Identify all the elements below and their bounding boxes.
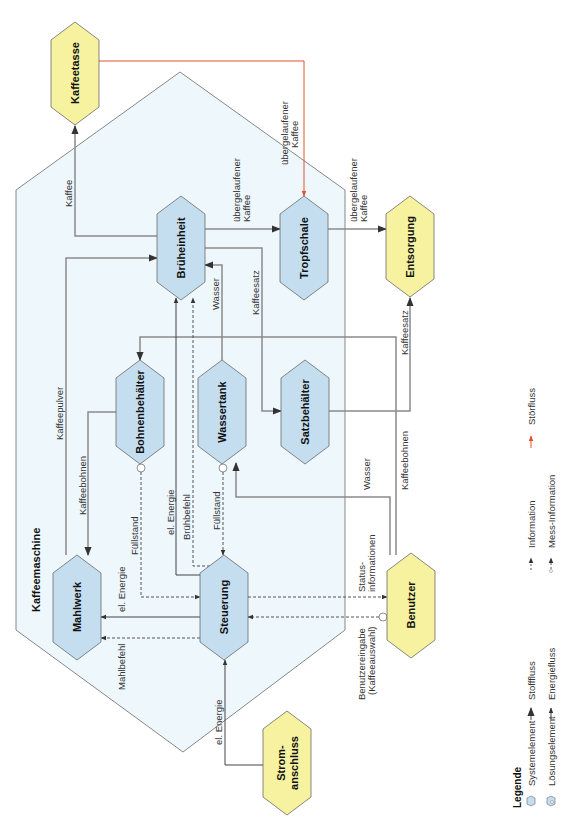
legend-label: Störfluss — [526, 388, 537, 425]
measure-point-benutzer — [379, 613, 387, 621]
flow-label: Kaffeepulver — [54, 387, 65, 440]
svg-text:Satzbehälter: Satzbehälter — [299, 379, 311, 445]
flow-label: informationen — [366, 534, 377, 592]
node-steuerung: Steuerung — [200, 555, 248, 660]
flow-label: Wasser — [361, 458, 372, 490]
flow-label: Kaffee — [358, 195, 369, 222]
legend-label: Information — [526, 500, 537, 548]
svg-text:Kaffeetasse: Kaffeetasse — [69, 42, 81, 104]
svg-text:Benutzer: Benutzer — [405, 581, 417, 629]
measure-point-wasser — [219, 464, 227, 472]
coffee-machine-system-diagram: Kaffeemaschine übergelaufener Kaffee Kaf… — [0, 0, 586, 827]
svg-text:Steuerung: Steuerung — [218, 580, 230, 634]
flow-label: Wasser — [210, 278, 221, 310]
flow-label: (Kaffeeauswahl) — [366, 627, 377, 695]
system-label: Kaffeemaschine — [30, 528, 42, 612]
flow-label: Kaffeebohnen — [399, 431, 410, 490]
flow-label: Kaffee — [241, 195, 252, 222]
flow-label: Kaffeesatz — [399, 310, 410, 355]
legend-label: Mess-Information — [546, 475, 557, 548]
node-brueheinheit: Brüheinheit — [157, 196, 205, 300]
node-mahlwerk: Mahlwerk — [53, 555, 101, 660]
svg-text:anschluss: anschluss — [288, 736, 300, 790]
flow-label: Kaffeesatz — [250, 270, 261, 315]
flow-label: Kaffeebohnen — [77, 456, 88, 515]
flow-label: el. Energie — [165, 490, 176, 535]
svg-text:Bohnenbehälter: Bohnenbehälter — [134, 369, 146, 453]
svg-text:Entsorgung: Entsorgung — [404, 216, 416, 278]
flow-label: Füllstand — [129, 516, 140, 555]
flow-label: el. Energie — [116, 567, 127, 612]
flow-label: Brühbefehl — [181, 494, 192, 540]
flow-label: Mahlbefehl — [116, 644, 127, 690]
svg-text:Tropfschale: Tropfschale — [298, 217, 310, 279]
svg-text:Brüheinheit: Brüheinheit — [175, 217, 187, 278]
flow-label: Kaffee — [63, 180, 74, 207]
svg-text:Mahlwerk: Mahlwerk — [71, 581, 83, 632]
flow-label: Kaffee — [289, 121, 300, 148]
svg-text:Wassertank: Wassertank — [216, 380, 228, 442]
legend: Legende Systemelement Lösungselement Sto… — [512, 388, 557, 808]
node-bohnenbehaelter: Bohnenbehälter — [116, 360, 164, 464]
node-tropfschale: Tropfschale — [280, 196, 328, 300]
hexagon-blue-icon — [527, 796, 535, 806]
measure-point-bohnen — [137, 464, 145, 472]
flow-label: el. Energie — [213, 700, 224, 745]
node-satzbehaelter: Satzbehälter — [281, 360, 329, 464]
node-kaffeetasse: Kaffeetasse — [51, 22, 99, 125]
legend-title: Legende — [512, 766, 523, 808]
legend-label: Systemelement — [526, 720, 537, 786]
svg-text:Strom-: Strom- — [275, 745, 287, 781]
legend-label: Energiefluss — [546, 647, 557, 700]
legend-label: Lösungselement — [546, 716, 557, 786]
node-entsorgung: Entsorgung — [386, 196, 434, 297]
node-stromanschluss: Strom- anschluss — [263, 711, 311, 815]
legend-label: Stofffluss — [526, 661, 537, 700]
flow-label: Füllstand — [211, 491, 222, 530]
node-wassertank: Wassertank — [198, 360, 246, 464]
node-benutzer: Benutzer — [387, 553, 435, 658]
